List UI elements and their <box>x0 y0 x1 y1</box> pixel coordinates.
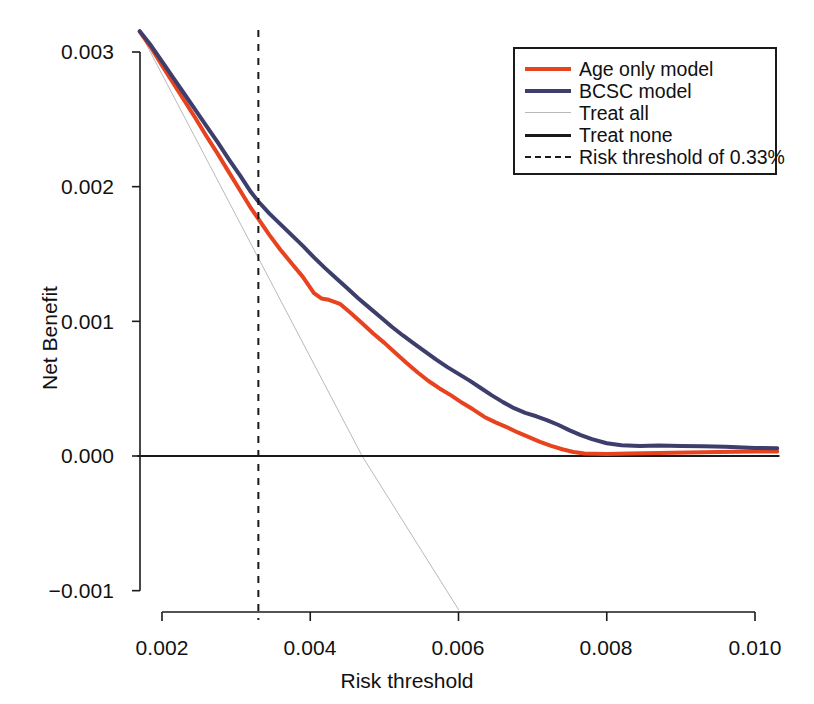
legend: Age only model BCSC model Treat all Trea… <box>513 47 777 175</box>
legend-item-treat-all: Treat all <box>515 102 775 124</box>
legend-item-bcsc-model: BCSC model <box>515 80 775 102</box>
ytick-label-0002: 0.002 <box>14 175 114 199</box>
ytick-label-0003: 0.003 <box>14 40 114 64</box>
legend-label-bcsc-model: BCSC model <box>579 80 692 102</box>
legend-swatch-bcsc-model-icon <box>525 84 571 98</box>
xtick-label-0010: 0.010 <box>695 636 814 660</box>
x-axis-title: Risk threshold <box>0 669 814 693</box>
legend-swatch-risk-threshold-icon <box>525 150 571 164</box>
legend-swatch-treat-all-icon <box>525 106 571 120</box>
legend-label-treat-all: Treat all <box>579 102 649 124</box>
decision-curve-figure: 0.003 0.002 0.001 0.000 −0.001 0.002 0.0… <box>0 0 814 704</box>
ytick-label-0001: 0.001 <box>14 310 114 334</box>
xtick-label-0006: 0.006 <box>398 636 518 660</box>
legend-swatch-age-only-model-icon <box>525 62 571 76</box>
xtick-label-0002: 0.002 <box>102 636 222 660</box>
y-axis-title: Net Benefit <box>38 286 62 390</box>
legend-item-risk-threshold: Risk threshold of 0.33% <box>515 146 775 168</box>
legend-label-risk-threshold: Risk threshold of 0.33% <box>579 146 785 168</box>
ytick-label-neg0001: −0.001 <box>4 579 114 603</box>
legend-label-treat-none: Treat none <box>579 124 673 146</box>
ytick-label-0000: 0.000 <box>14 444 114 468</box>
xtick-label-0004: 0.004 <box>250 636 370 660</box>
legend-label-age-only-model: Age only model <box>579 58 713 80</box>
legend-swatch-treat-none-icon <box>525 128 571 142</box>
series-line-treat-all <box>140 32 459 610</box>
legend-item-age-only-model: Age only model <box>515 58 775 80</box>
legend-item-treat-none: Treat none <box>515 124 775 146</box>
xtick-label-0008: 0.008 <box>546 636 666 660</box>
